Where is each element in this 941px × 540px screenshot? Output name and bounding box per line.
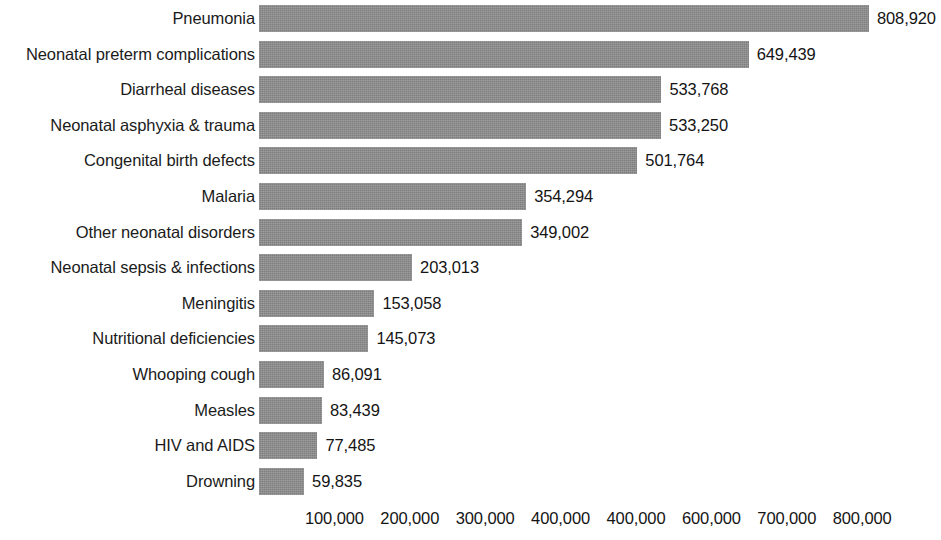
bar <box>259 219 522 246</box>
bar <box>259 254 412 281</box>
x-axis-tick-label: 200,000 <box>380 509 439 528</box>
bar <box>259 112 661 139</box>
x-axis-tick-label: 100,000 <box>305 509 364 528</box>
bar-row: Congenital birth defects501,764 <box>0 147 941 174</box>
bar-value-label: 77,485 <box>325 432 375 459</box>
bar-value-label: 649,439 <box>757 41 816 68</box>
category-label: Neonatal asphyxia & trauma <box>50 112 255 139</box>
bar-row: Malaria354,294 <box>0 183 941 210</box>
category-label: Pneumonia <box>172 5 255 32</box>
bar <box>259 183 526 210</box>
category-label: Drowning <box>186 468 255 495</box>
bar-row: Neonatal sepsis & infections203,013 <box>0 254 941 281</box>
bar-row: Other neonatal disorders349,002 <box>0 219 941 246</box>
bar-value-label: 83,439 <box>330 397 380 424</box>
bar <box>259 147 637 174</box>
bar-row: Whooping cough86,091 <box>0 361 941 388</box>
bar-value-label: 145,073 <box>376 325 435 352</box>
bar <box>259 397 322 424</box>
bar-row: Measles83,439 <box>0 397 941 424</box>
bar <box>259 361 324 388</box>
category-label: HIV and AIDS <box>154 432 255 459</box>
x-axis-tick-label: 400,000 <box>607 509 666 528</box>
x-axis-tick-label: 400,000 <box>531 509 590 528</box>
bar <box>259 290 374 317</box>
bar-value-label: 59,835 <box>312 468 362 495</box>
bar <box>259 76 661 103</box>
category-label: Diarrheal diseases <box>120 76 255 103</box>
category-label: Neonatal preterm complications <box>26 41 255 68</box>
bar-value-label: 86,091 <box>332 361 382 388</box>
category-label: Neonatal sepsis & infections <box>51 254 255 281</box>
x-axis: 100,000200,000300,000400,000400,000600,0… <box>0 505 941 540</box>
bar-value-label: 203,013 <box>420 254 479 281</box>
x-axis-tick-label: 700,000 <box>757 509 816 528</box>
bar-row: Neonatal preterm complications649,439 <box>0 41 941 68</box>
category-label: Malaria <box>202 183 255 210</box>
bar <box>259 5 869 32</box>
category-label: Meningitis <box>182 290 255 317</box>
bar-row: Meningitis153,058 <box>0 290 941 317</box>
bar-value-label: 354,294 <box>534 183 593 210</box>
bar-row: Pneumonia808,920 <box>0 5 941 32</box>
bar <box>259 468 304 495</box>
bar-value-label: 533,250 <box>669 112 728 139</box>
bar <box>259 432 317 459</box>
x-axis-tick-label: 600,000 <box>682 509 741 528</box>
x-axis-tick-label: 300,000 <box>456 509 515 528</box>
bar-row: Drowning59,835 <box>0 468 941 495</box>
bar-chart: Pneumonia808,920Neonatal preterm complic… <box>0 0 941 540</box>
bar-row: Nutritional deficiencies145,073 <box>0 325 941 352</box>
bar-value-label: 153,058 <box>382 290 441 317</box>
category-label: Whooping cough <box>133 361 255 388</box>
plot-area: Pneumonia808,920Neonatal preterm complic… <box>0 0 941 505</box>
bar-value-label: 349,002 <box>530 219 589 246</box>
category-label: Congenital birth defects <box>84 147 255 174</box>
category-label: Other neonatal disorders <box>76 219 255 246</box>
bar-value-label: 533,768 <box>669 76 728 103</box>
bar-row: Diarrheal diseases533,768 <box>0 76 941 103</box>
category-label: Nutritional deficiencies <box>92 325 255 352</box>
x-axis-tick-label: 800,000 <box>833 509 892 528</box>
bar-value-label: 501,764 <box>645 147 704 174</box>
bar-row: HIV and AIDS77,485 <box>0 432 941 459</box>
bar-row: Neonatal asphyxia & trauma533,250 <box>0 112 941 139</box>
bar <box>259 41 749 68</box>
bar <box>259 325 368 352</box>
category-label: Measles <box>194 397 255 424</box>
bar-value-label: 808,920 <box>877 5 936 32</box>
